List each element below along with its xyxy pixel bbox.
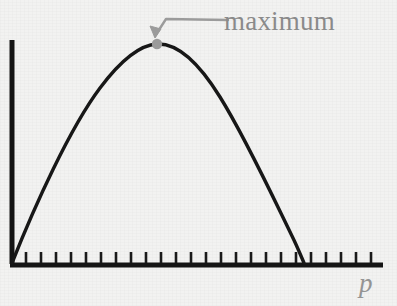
curve-path [12, 44, 304, 263]
x-axis-ticks [26, 252, 371, 263]
maximum-annotation-label: maximum [224, 6, 335, 36]
plot-figure [0, 0, 397, 306]
figure-page: maximum p [0, 0, 397, 306]
leader-line-icon [155, 19, 228, 36]
x-axis-label: p [359, 268, 373, 298]
maximum-point-dot-icon [152, 39, 162, 49]
